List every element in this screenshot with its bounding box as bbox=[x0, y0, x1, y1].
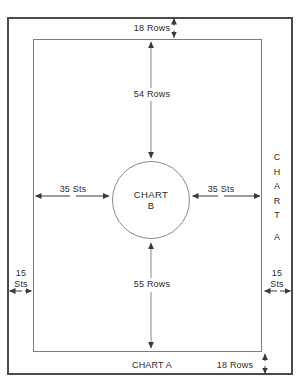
measurement-top-rows: 18 Rows bbox=[134, 23, 170, 33]
measurement-left-margin-unit: Sts bbox=[14, 279, 28, 289]
chart-a-letter-3: R bbox=[263, 194, 291, 209]
measurement-right-margin-unit: Sts bbox=[270, 279, 284, 289]
measurement-bottom-inner-rows: 55 Rows bbox=[134, 279, 170, 289]
chart-a-letter-4: T bbox=[263, 208, 291, 223]
chart-a-letter-6: A bbox=[263, 230, 291, 245]
measurement-left-margin: 15 Sts bbox=[8, 268, 34, 291]
chart-b-label-line1: CHART bbox=[134, 189, 169, 200]
chart-a-letter-space bbox=[263, 223, 291, 230]
measurement-top-inner-rows: 54 Rows bbox=[134, 89, 170, 99]
chart-b-label-line2: B bbox=[148, 200, 155, 211]
chart-a-letter-0: C bbox=[263, 150, 291, 165]
measurement-left-sts: 35 Sts bbox=[60, 184, 87, 194]
chart-a-bottom-label: CHART A bbox=[132, 360, 172, 370]
chart-a-vertical-label: C H A R T A bbox=[263, 150, 291, 244]
measurement-left-margin-value: 15 bbox=[16, 268, 26, 278]
measurement-right-sts: 35 Sts bbox=[208, 184, 235, 194]
diagram-canvas: CHART B bbox=[0, 0, 301, 388]
measurement-bottom-rows: 18 Rows bbox=[217, 360, 253, 370]
measurement-right-margin: 15 Sts bbox=[264, 268, 290, 291]
chart-a-letter-1: H bbox=[263, 165, 291, 180]
chart-a-letter-2: A bbox=[263, 179, 291, 194]
measurement-right-margin-value: 15 bbox=[272, 268, 282, 278]
chart-b-circle: CHART B bbox=[112, 161, 190, 239]
